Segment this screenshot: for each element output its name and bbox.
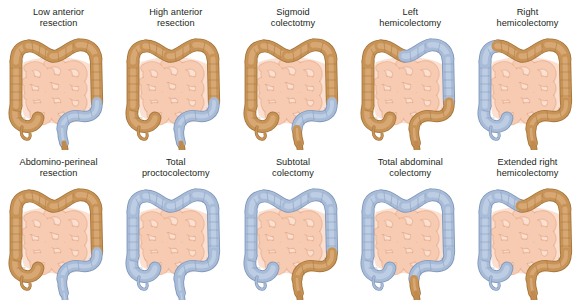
panel-caption: Extended right hemicolectomy: [469, 157, 586, 179]
panel-caption: Total abdominal colectomy: [352, 157, 469, 179]
bowel-illustration: [235, 32, 352, 150]
bowel-illustration: [235, 182, 352, 300]
panel-extended-right-hemicolectomy[interactable]: Extended right hemicolectomy: [469, 150, 586, 300]
panel-caption: Sigmoid colectotmy: [235, 7, 352, 29]
panel-illustration: [117, 32, 234, 150]
panel-row-top: Low anterior resectionHigh anterior rese…: [0, 0, 586, 150]
panel-illustration: [352, 182, 469, 300]
panel-low-anterior-resection[interactable]: Low anterior resection: [0, 0, 117, 150]
panel-illustration: [0, 32, 117, 150]
panel-subtotal-colectomy[interactable]: Subtotal colectomy: [235, 150, 352, 300]
panel-illustration: [352, 32, 469, 150]
bowel-illustration: [117, 32, 234, 150]
panel-caption: Abdomino-perineal resection: [0, 157, 117, 179]
panel-abdomino-perineal-resection[interactable]: Abdomino-perineal resection: [0, 150, 117, 300]
panel-illustration: [0, 182, 117, 300]
panel-right-hemicolectomy[interactable]: Right hemicolectomy: [469, 0, 586, 150]
panel-caption: Low anterior resection: [0, 7, 117, 29]
bowel-illustration: [117, 182, 234, 300]
panel-illustration: [235, 32, 352, 150]
bowel-illustration: [469, 32, 586, 150]
panel-caption: Left hemicolectomy: [352, 7, 469, 29]
panel-illustration: [117, 182, 234, 300]
colorectal-resection-figure: Low anterior resectionHigh anterior rese…: [0, 0, 586, 300]
panel-illustration: [235, 182, 352, 300]
panel-illustration: [469, 182, 586, 300]
bowel-illustration: [352, 32, 469, 150]
panel-caption: High anterior resection: [117, 7, 234, 29]
panel-illustration: [469, 32, 586, 150]
bowel-illustration: [0, 182, 117, 300]
panel-caption: Total proctocolectomy: [117, 157, 234, 179]
bowel-illustration: [0, 32, 117, 150]
panel-row-bottom: Abdomino-perineal resectionTotal proctoc…: [0, 150, 586, 300]
bowel-illustration: [469, 182, 586, 300]
bowel-illustration: [352, 182, 469, 300]
panel-total-proctocolectomy[interactable]: Total proctocolectomy: [117, 150, 234, 300]
panel-left-hemicolectomy[interactable]: Left hemicolectomy: [352, 0, 469, 150]
panel-total-abdominal-colectomy[interactable]: Total abdominal colectomy: [352, 150, 469, 300]
panel-high-anterior-resection[interactable]: High anterior resection: [117, 0, 234, 150]
panel-sigmoid-colectomy[interactable]: Sigmoid colectotmy: [235, 0, 352, 150]
panel-caption: Subtotal colectomy: [235, 157, 352, 179]
panel-caption: Right hemicolectomy: [469, 7, 586, 29]
